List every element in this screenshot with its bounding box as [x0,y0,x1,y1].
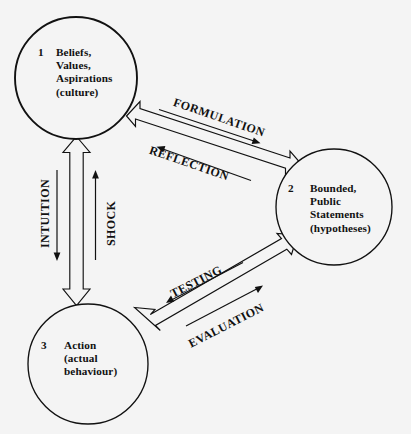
edge-label-shock: SHOCK [104,201,119,246]
node-3-number: 3 [41,339,47,351]
node-3-line-1: Action [64,339,117,352]
node-3-line-3: behaviour) [64,365,117,378]
node-2-line-1: Bounded, [310,182,371,195]
node-3-line-2: (actual [64,352,117,365]
shock-direction-arrow [92,170,99,260]
node-2-line-2: Public [310,195,371,208]
node-3-label: Action (actual behaviour) [64,339,117,379]
node-1-number: 1 [38,46,44,58]
node-1-label: Beliefs, Values, Aspirations (culture) [56,46,112,99]
edge-label-intuition: INTUITION [38,179,53,248]
node-2-number: 2 [288,182,294,194]
node-1-line-3: Aspirations [56,72,112,85]
node-2-label: Bounded, Public Statements (hypotheses) [310,182,371,235]
intuition-direction-arrow [54,170,61,261]
node-2-line-4: (hypotheses) [310,222,371,235]
node-1-line-4: (culture) [56,86,112,99]
edge-intuition-shock-arrow [63,137,90,306]
node-1-line-2: Values, [56,59,112,72]
edge-testing-evaluation-arrow [135,234,298,331]
node-2-line-3: Statements [310,208,371,221]
node-1-line-1: Beliefs, [56,46,112,59]
diagram-canvas: 1 Beliefs, Values, Aspirations (culture)… [0,0,411,434]
